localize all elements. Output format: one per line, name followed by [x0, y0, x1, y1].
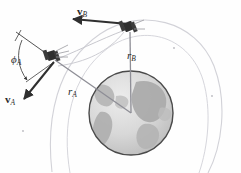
orbit-tick: [22, 130, 24, 132]
radius-b-label: rB: [127, 50, 136, 63]
flight-path-angle-label: ϕA: [11, 54, 21, 67]
velocity-b-subscript: B: [83, 10, 88, 19]
orbit-transfer-arc: [55, 28, 131, 60]
radius-a-label: rA: [68, 86, 77, 99]
velocity-a-label: vA: [5, 94, 15, 107]
orbit-tick: [173, 47, 175, 49]
radius-b-subscript: B: [131, 54, 136, 63]
horizon-tick: [15, 30, 21, 41]
velocity-b-label: vB: [77, 6, 87, 19]
satellite-a: [43, 45, 69, 61]
radius-a-subscript: A: [72, 90, 77, 99]
orbit-tick: [211, 95, 213, 97]
satellite-b: [118, 20, 145, 32]
velocity-a-subscript: A: [11, 98, 16, 107]
orbit-diagram-figure: vB vA ϕA rB rA: [0, 0, 241, 173]
orbit-transfer-arc-lower: [58, 32, 124, 66]
orbit-diagram-canvas: [0, 0, 241, 173]
phi-subscript: A: [17, 58, 22, 67]
